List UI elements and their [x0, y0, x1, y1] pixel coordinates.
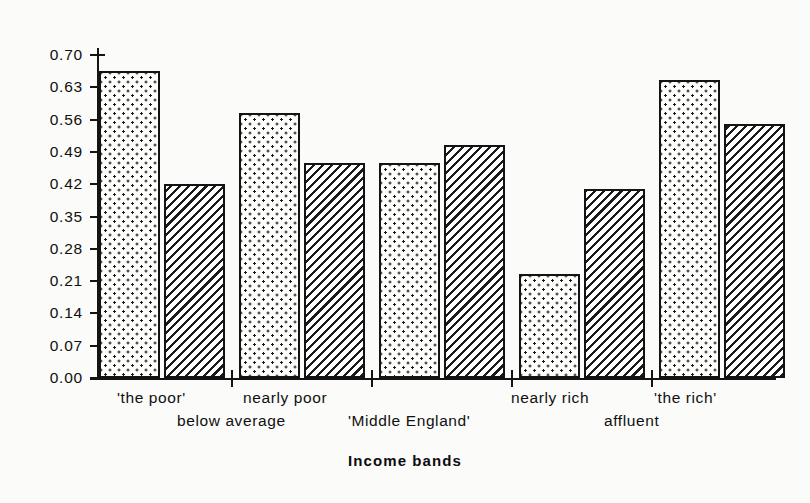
bar: [724, 124, 785, 378]
y-axis-tick-label: 0.70: [50, 46, 83, 64]
y-axis-tick-label: 0.42: [50, 175, 83, 193]
bar-chart: 0.000.070.140.210.280.350.420.490.560.63…: [0, 0, 810, 503]
bar: [99, 71, 160, 378]
y-axis-tick-label: 0.49: [50, 143, 83, 161]
y-axis-tick-label: 0.14: [50, 304, 83, 322]
bar: [584, 189, 645, 378]
category-label: 'the poor': [117, 389, 186, 407]
bar: [304, 163, 365, 378]
bar: [379, 163, 440, 378]
category-label: nearly poor: [243, 389, 327, 407]
y-axis-tick-label: 0.28: [50, 240, 83, 258]
y-axis-tick-label: 0.07: [50, 337, 83, 355]
y-axis-tick-label: 0.00: [50, 369, 83, 387]
category-label: 'Middle England': [348, 412, 470, 430]
plot-area: [97, 55, 775, 378]
bar: [239, 113, 300, 378]
y-axis-tick-label: 0.56: [50, 111, 83, 129]
bar: [659, 80, 720, 378]
y-axis-tick-label: 0.63: [50, 78, 83, 96]
category-label: below average: [177, 412, 286, 430]
y-axis-tick-label: 0.21: [50, 272, 83, 290]
x-axis-line: [90, 378, 776, 380]
x-axis-title: Income bands: [0, 452, 810, 469]
bar: [519, 274, 580, 378]
category-label: 'the rich': [654, 389, 717, 407]
bar: [444, 145, 505, 378]
category-label: affluent: [604, 412, 659, 430]
y-axis-tick-label: 0.35: [50, 208, 83, 226]
category-label: nearly rich: [511, 389, 589, 407]
bar: [164, 184, 225, 378]
